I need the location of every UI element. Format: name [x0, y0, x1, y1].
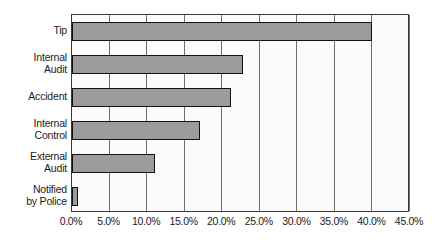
value-axis: 0.0%5.0%10.0%15.0%20.0%25.0%30.0%35.0%40…: [0, 215, 438, 235]
bar: [72, 22, 372, 41]
bars-layer: [72, 15, 408, 211]
x-tick-label: 45.0%: [386, 215, 432, 228]
bar: [72, 187, 78, 206]
category-label: External Audit: [0, 151, 67, 174]
category-label: Internal Control: [0, 118, 67, 141]
gridline: [409, 15, 410, 211]
bar: [72, 121, 200, 140]
bar: [72, 88, 231, 107]
bar-chart: TipInternal AuditAccidentInternal Contro…: [0, 0, 438, 245]
category-label: Internal Audit: [0, 52, 67, 75]
category-label: Tip: [0, 25, 67, 37]
category-axis: TipInternal AuditAccidentInternal Contro…: [0, 14, 67, 212]
bar: [72, 55, 243, 74]
category-label: Accident: [0, 91, 67, 103]
plot-area: [71, 14, 409, 212]
bar: [72, 154, 155, 173]
category-label: Notified by Police: [0, 184, 67, 207]
